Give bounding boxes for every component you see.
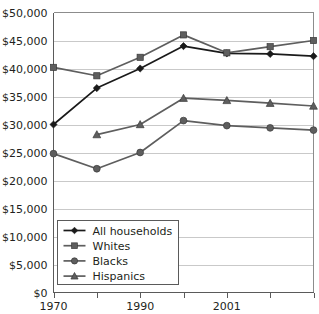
y-axis-tick-label: $30,000: [2, 119, 48, 132]
data-point-marker: [224, 50, 230, 56]
y-axis-tick-label: $0: [34, 287, 48, 300]
data-point-marker: [310, 37, 316, 43]
x-axis-tick-labels: 197019902001: [40, 300, 241, 313]
data-point-marker: [180, 117, 187, 124]
x-axis-tick-label: 1990: [126, 300, 154, 313]
data-point-marker: [93, 165, 100, 172]
legend-item-label: Blacks: [93, 255, 129, 268]
data-point-marker: [137, 149, 144, 156]
series-line: [54, 121, 314, 169]
legend-item-label: Hispanics: [93, 270, 146, 283]
y-axis-tick-label: $25,000: [2, 147, 48, 160]
data-point-marker: [137, 54, 143, 60]
y-axis-tick-label: $10,000: [2, 231, 48, 244]
data-series: [50, 43, 317, 129]
data-series: [50, 32, 316, 79]
data-point-marker: [50, 64, 56, 70]
y-axis-tick-label: $35,000: [2, 91, 48, 104]
data-point-marker: [267, 124, 274, 131]
data-point-marker: [310, 127, 317, 134]
x-axis-tick-label: 2001: [213, 300, 241, 313]
x-axis-tick-label: 1970: [40, 300, 68, 313]
x-axis-tick-marks: [55, 293, 315, 298]
data-point-marker: [223, 122, 230, 129]
y-axis-tick-label: $15,000: [2, 203, 48, 216]
data-point-marker: [310, 53, 317, 60]
y-axis-tick-label: $5,000: [9, 259, 48, 272]
chart-legend: All householdsWhitesBlacksHispanics: [58, 221, 179, 285]
y-axis-tick-label: $50,000: [2, 7, 48, 20]
data-series-group: [50, 32, 318, 172]
series-line: [54, 46, 314, 124]
legend-sample-marker: [72, 243, 78, 249]
legend-sample-marker: [71, 258, 77, 264]
data-point-marker: [137, 65, 144, 72]
data-point-marker: [94, 73, 100, 79]
data-series: [93, 94, 317, 137]
data-point-marker: [180, 32, 186, 38]
data-point-marker: [50, 150, 57, 157]
data-point-marker: [267, 50, 274, 57]
y-axis-tick-label: $40,000: [2, 63, 48, 76]
data-point-marker: [136, 121, 144, 128]
legend-item-label: Whites: [93, 240, 131, 253]
income-line-chart: $50,000$45,000$40,000$35,000$30,000$25,0…: [0, 0, 319, 314]
data-point-marker: [267, 44, 273, 50]
y-axis-tick-label: $45,000: [2, 35, 48, 48]
y-axis-tick-labels: $50,000$45,000$40,000$35,000$30,000$25,0…: [2, 7, 48, 300]
chart-canvas: $50,000$45,000$40,000$35,000$30,000$25,0…: [0, 0, 319, 314]
legend-item-label: All households: [93, 225, 173, 238]
data-point-marker: [180, 43, 187, 50]
y-axis-tick-label: $20,000: [2, 175, 48, 188]
